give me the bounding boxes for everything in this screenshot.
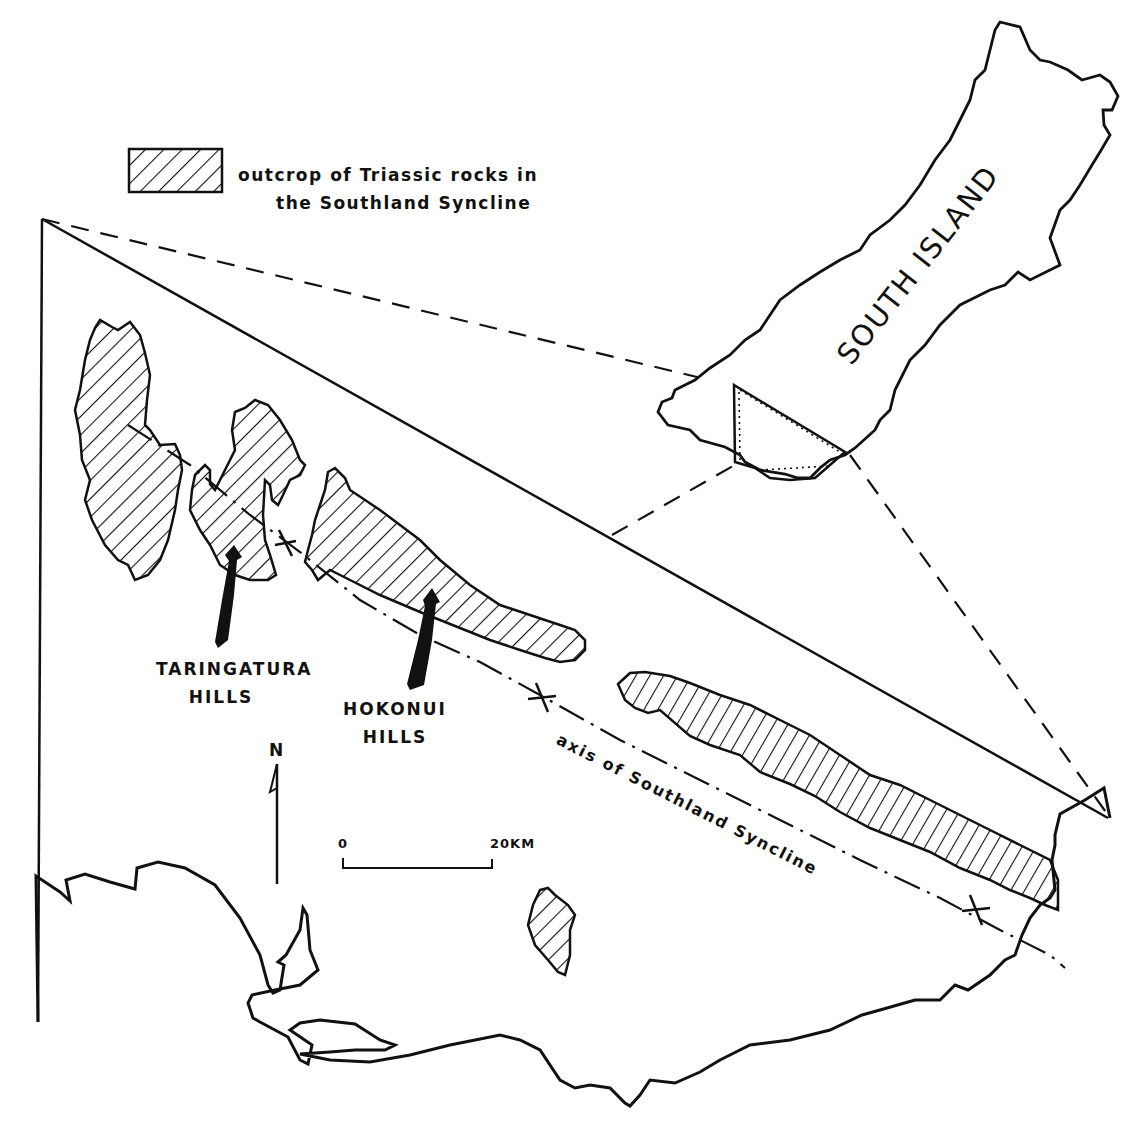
outcrop-west [75, 320, 182, 580]
triassic-outcrops [75, 320, 1058, 975]
outcrop-hokonui [305, 468, 585, 662]
north-arrow-icon [265, 762, 289, 887]
outcrop-south-islet [528, 888, 575, 975]
map-canvas [0, 0, 1130, 1129]
south-island-outline [658, 22, 1118, 478]
outcrop-taringatura [190, 400, 305, 580]
scale-bar-end: 20KM [490, 836, 535, 851]
legend-label-line2: the Southland Syncline [276, 190, 531, 216]
taringatura-hills-label: TARINGATURA HILLS [156, 655, 286, 711]
hokonui-line2: HILLS [340, 723, 450, 751]
north-label: N [269, 740, 283, 760]
taringatura-line2: HILLS [156, 683, 286, 711]
hokonui-hills-label: HOKONUI HILLS [340, 695, 450, 751]
scale-bar-start: 0 [338, 836, 348, 851]
taringatura-line1: TARINGATURA [156, 655, 286, 683]
scale-bar [340, 856, 500, 872]
legend-label-line1: outcrop of Triassic rocks in [238, 162, 538, 188]
hokonui-line1: HOKONUI [340, 695, 450, 723]
outcrop-east-band [618, 672, 1058, 910]
legend-swatch [129, 149, 222, 192]
